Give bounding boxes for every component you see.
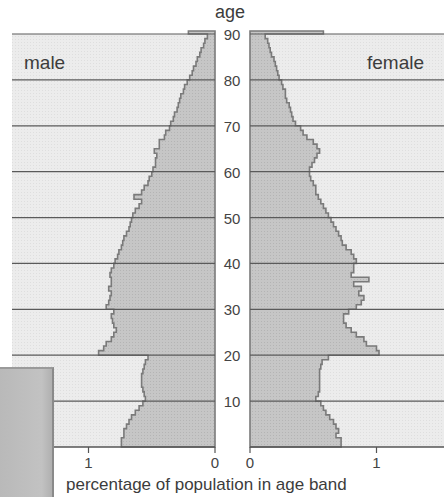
age-tick-label: 40 [224, 255, 241, 272]
age-tick-label: 90 [224, 26, 241, 43]
age-tick-label: 10 [224, 393, 241, 410]
y-axis-label: age [215, 2, 245, 23]
female-x-tick-label: 0 [246, 454, 254, 471]
overlay-gray-panel [0, 367, 54, 497]
x-axes [12, 447, 444, 453]
age-tick-label: 80 [224, 71, 241, 88]
female-x-tick-label: 1 [372, 454, 380, 471]
age-tick-label: 60 [224, 163, 241, 180]
age-tick-label: 30 [224, 301, 241, 318]
age-tick-label: 70 [224, 117, 241, 134]
male-x-tick-label: 1 [84, 454, 92, 471]
male-x-tick-label: 0 [211, 454, 219, 471]
age-tick-label: 50 [224, 209, 241, 226]
age-tick-label: 20 [224, 347, 241, 364]
female-panel-label: female [367, 52, 424, 74]
male-panel-label: male [24, 52, 65, 74]
x-axis-label: percentage of population in age band [66, 475, 347, 495]
